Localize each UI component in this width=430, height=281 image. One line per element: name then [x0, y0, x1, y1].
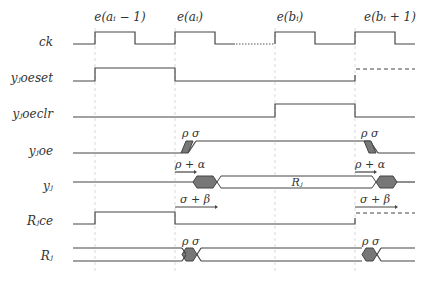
bus-transition-yj-2	[376, 176, 397, 188]
timing-diagram: e(aᵢ − 1) e(aᵢ) e(bᵢ) e(bᵢ + 1) ck yⱼoes…	[0, 0, 430, 281]
rho-plus-alpha-label-1: ρ + α	[174, 158, 206, 171]
sigma-label-2: σ	[371, 127, 379, 140]
edge-label-e-bi-plus-1: e(bᵢ + 1)	[364, 10, 416, 24]
bus-transition-rj-2	[362, 248, 377, 261]
rho-alpha-annotations: ρ + α ρ + α	[174, 158, 386, 174]
waveform-yjoe: ρ σ ρ σ	[73, 127, 415, 153]
signal-label-ck: ck	[39, 35, 53, 49]
rho-label-2: ρ	[360, 127, 368, 140]
edge-label-e-bi: e(bᵢ)	[277, 10, 304, 24]
signal-label-rjce: Rⱼce	[26, 214, 53, 228]
bus-label-rj: Rⱼ	[290, 176, 302, 189]
rho-label-4: ρ	[361, 235, 369, 248]
rho-label-3: ρ	[181, 235, 189, 248]
sigma-label-1: σ	[192, 127, 200, 140]
edge-label-e-ai: e(aᵢ)	[177, 10, 203, 24]
edge-guides	[95, 28, 355, 272]
waveform-yjoeset	[73, 68, 415, 81]
waveform-rjce	[73, 212, 415, 224]
signal-label-yjoeset: yⱼoeset	[10, 71, 54, 85]
sigma-label-3: σ	[192, 235, 200, 248]
bus-transition-rj-1	[182, 248, 197, 261]
signal-label-yjoe: yⱼoe	[28, 144, 53, 158]
waveform-rj: ρ σ ρ σ	[73, 235, 415, 261]
rho-plus-alpha-label-2: ρ + α	[354, 158, 386, 171]
sigma-plus-beta-label-1: σ + β	[180, 193, 210, 206]
signal-label-yj: yⱼ	[42, 179, 54, 193]
rho-label-1: ρ	[181, 127, 189, 140]
sigma-beta-annotations: σ + β σ + β	[175, 193, 398, 209]
bus-transition-yj-1	[193, 176, 217, 188]
waveform-yj: Rⱼ	[73, 176, 415, 189]
sigma-plus-beta-label-2: σ + β	[360, 193, 390, 206]
waveform-yjoeclr	[73, 104, 415, 117]
transition-hex-yjoe-1	[181, 141, 193, 153]
signal-label-yjoeclr: yⱼoeclr	[11, 107, 54, 121]
signal-label-rj: Rⱼ	[40, 249, 54, 263]
sigma-label-4: σ	[372, 235, 380, 248]
edge-label-e-ai-minus-1: e(aᵢ − 1)	[94, 10, 146, 24]
waveform-ck	[73, 32, 415, 44]
